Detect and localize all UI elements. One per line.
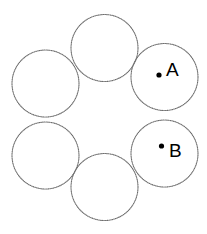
circle-lower-left <box>12 122 79 189</box>
circle-upper-right <box>131 44 198 111</box>
circle-packing-figure: A B <box>0 0 207 234</box>
point-a-dot <box>156 72 161 77</box>
circle-bottom <box>71 154 138 221</box>
circle-upper-left <box>12 50 79 117</box>
point-a-label: A <box>166 60 179 79</box>
circle-top <box>71 15 138 82</box>
circle-group <box>12 15 198 221</box>
figure-canvas <box>0 0 207 234</box>
point-b-label: B <box>169 141 182 160</box>
circle-lower-right <box>131 120 198 187</box>
point-b-dot <box>159 143 164 148</box>
